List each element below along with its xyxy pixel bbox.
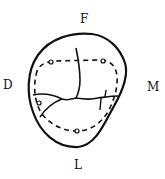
tooth-drawing (0, 0, 165, 179)
label-distal: D (3, 79, 13, 91)
mesial-groove-2 (105, 90, 106, 97)
oblique-distal-groove (40, 99, 62, 117)
label-facial: F (80, 13, 88, 25)
label-lingual: L (74, 159, 82, 171)
tooth-occlusal-diagram: F D M L (0, 0, 165, 179)
cusp-tip-lingual (75, 129, 79, 133)
cusp-tip-mesio-buccal (101, 59, 105, 63)
central-groove (76, 48, 80, 98)
cusp-tip-distal (37, 101, 41, 105)
label-mesial: M (147, 81, 159, 93)
cusp-tip-disto-buccal (49, 60, 53, 64)
mesial-groove-1 (100, 98, 101, 110)
